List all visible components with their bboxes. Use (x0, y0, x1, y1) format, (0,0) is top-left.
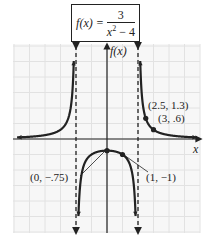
annotation-2.5-1.3: (2.5, 1.3) (148, 99, 188, 111)
title-denominator: x2 − 4 (107, 23, 135, 38)
y-axis-label: f(x) (110, 44, 127, 59)
title-fraction: 3 x2 − 4 (107, 9, 135, 38)
title-numerator: 3 (107, 9, 135, 23)
annotation-0-neg0.75: (0, −.75) (30, 171, 68, 183)
x-axis-label: x (193, 142, 198, 157)
title-lhs: f(x) = (76, 16, 104, 31)
annotation-3-0.6: (3, .6) (158, 112, 185, 124)
function-title-box: f(x) = 3 x2 − 4 (71, 4, 140, 42)
annotation-1-neg1: (1, −1) (146, 171, 176, 183)
